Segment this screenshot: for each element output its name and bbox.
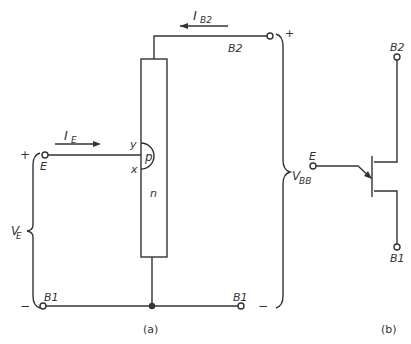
minus-right: − bbox=[258, 299, 268, 313]
e-terminal bbox=[42, 152, 48, 158]
b2-symbol-label: B2 bbox=[390, 41, 405, 54]
ie-sub-label: E bbox=[71, 135, 77, 145]
ib2-arrowhead-icon bbox=[180, 23, 188, 29]
e-symbol-terminal bbox=[310, 163, 316, 169]
ie-arrowhead-icon bbox=[93, 141, 101, 147]
b2-label: B2 bbox=[228, 42, 243, 55]
junction-dot bbox=[149, 303, 155, 309]
e-label: E bbox=[40, 160, 47, 173]
vbb-brace bbox=[276, 34, 290, 308]
ve-sub-label: E bbox=[16, 231, 22, 241]
ie-label: I bbox=[64, 128, 68, 143]
ve-brace bbox=[27, 153, 40, 308]
minus-left: − bbox=[20, 299, 30, 313]
b1-right-label: B1 bbox=[233, 291, 248, 304]
e-symbol-label: E bbox=[309, 150, 316, 163]
b1-symbol-wire bbox=[374, 191, 397, 244]
b1-symbol-label: B1 bbox=[390, 252, 405, 265]
y-label: y bbox=[129, 138, 137, 151]
b1-left-label: B1 bbox=[44, 291, 59, 304]
caption-b: (b) bbox=[381, 323, 397, 336]
p-label: p bbox=[144, 150, 153, 164]
b1-symbol-terminal bbox=[394, 244, 400, 250]
x-label: x bbox=[130, 163, 138, 176]
e-symbol-wire bbox=[316, 166, 371, 178]
ujt-diagram: I B2 B2 + I E + E y p x n V BB V E B1 − … bbox=[0, 0, 411, 344]
caption-a: (a) bbox=[143, 323, 158, 336]
plus-right: + bbox=[285, 27, 294, 40]
b2-symbol-wire bbox=[374, 60, 397, 162]
b2-wire bbox=[154, 36, 267, 59]
b2-terminal bbox=[267, 33, 273, 39]
diagram-svg: I B2 B2 + I E + E y p x n V BB V E B1 − … bbox=[0, 0, 411, 344]
ib2-sub-label: B2 bbox=[200, 15, 212, 25]
vbb-sub-label: BB bbox=[299, 176, 311, 186]
b2-symbol-terminal bbox=[394, 54, 400, 60]
plus-left: + bbox=[20, 148, 30, 162]
ib2-label: I bbox=[193, 8, 197, 23]
n-label: n bbox=[150, 187, 157, 200]
